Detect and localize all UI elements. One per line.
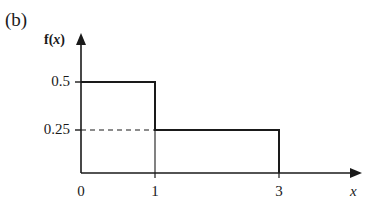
x-tick-label-1: 1 <box>145 184 165 199</box>
y-axis-label-close: ) <box>60 32 65 47</box>
y-axis-arrow-icon <box>76 33 86 45</box>
y-tick-label-0.25: 0.25 <box>30 122 70 137</box>
x-axis-arrow-icon <box>350 168 362 178</box>
x-tick-label-3: 3 <box>269 184 289 199</box>
x-tick-label-0: 0 <box>71 184 91 199</box>
y-tick-label-0.5: 0.5 <box>30 74 70 89</box>
y-axis-label-fn: f( <box>44 32 53 47</box>
x-axis-label: x <box>350 184 357 199</box>
y-axis-label: f(x) <box>44 33 65 47</box>
panel-label: (b) <box>5 10 27 29</box>
step-function-line <box>81 82 279 173</box>
